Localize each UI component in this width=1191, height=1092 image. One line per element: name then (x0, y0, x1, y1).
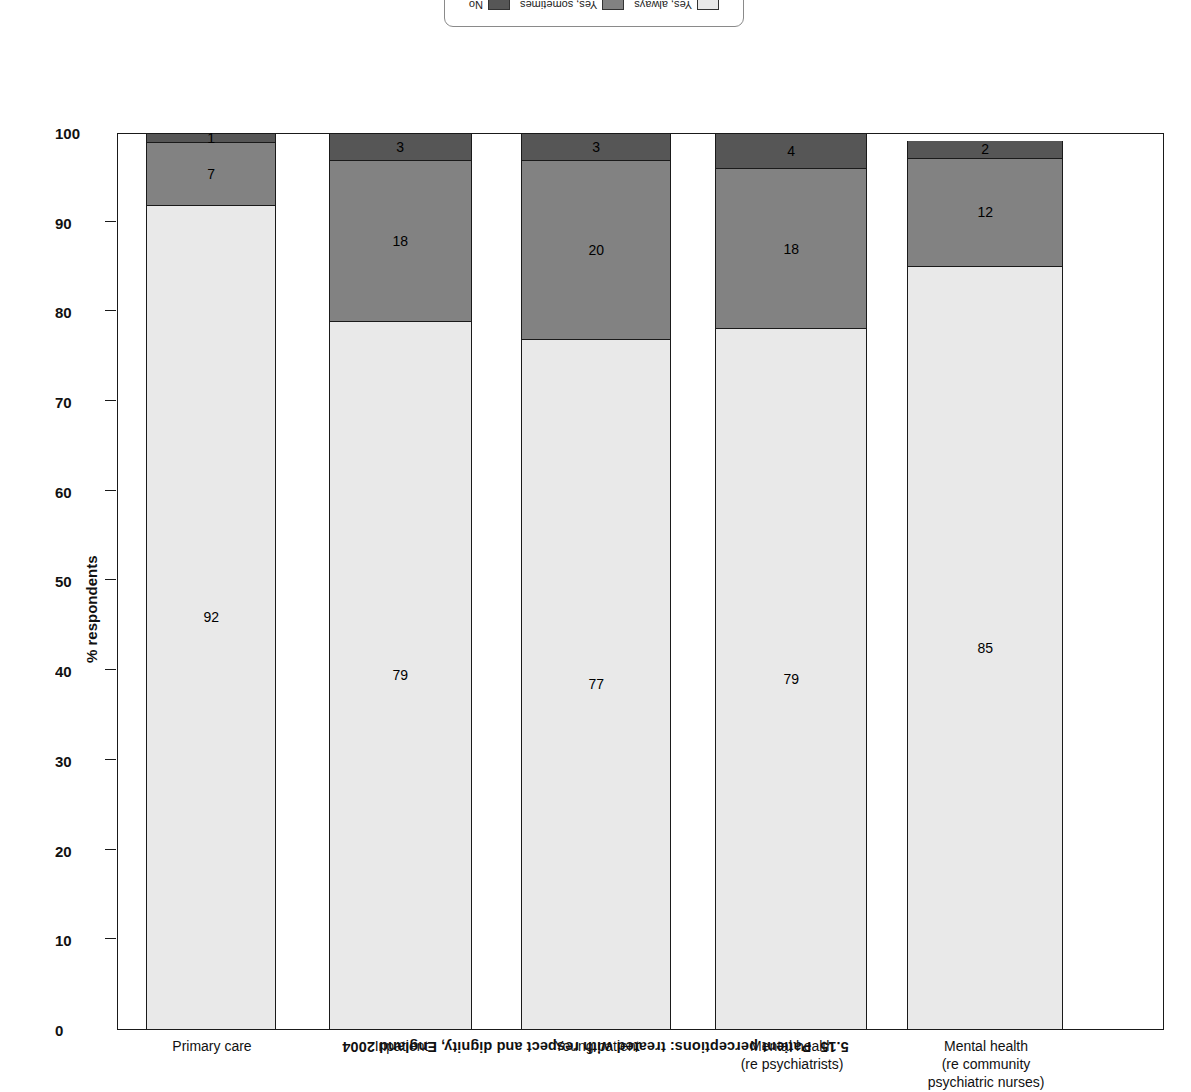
bar-segment: 2 (907, 141, 1063, 159)
bar-value-label: 20 (588, 243, 604, 257)
y-axis-tick (105, 310, 116, 311)
bar-segment: 79 (329, 322, 472, 1029)
bar-stack: 79183 (329, 134, 472, 1029)
legend-swatch (602, 0, 624, 11)
bars-layer: 927179183772037918485122 (118, 134, 1163, 1029)
bar-segment: 20 (521, 161, 671, 340)
bar-value-label: 1 (207, 131, 215, 145)
bar-stack: 77203 (521, 134, 671, 1029)
bar-column: 79183 (329, 134, 472, 1029)
bar-segment: 4 (715, 134, 867, 169)
category-label: Mental health(re psychiatrists) (681, 1038, 903, 1074)
y-axis-tick-label: 70 (55, 395, 101, 410)
y-axis-tick-label: 10 (55, 933, 101, 948)
y-axis-tick-label: 60 (55, 485, 101, 500)
bar-stack: 9271 (146, 134, 276, 1029)
bar-value-label: 92 (203, 610, 219, 624)
category-label-line: Young patient (487, 1038, 707, 1056)
y-axis-tick-label: 0 (55, 1023, 101, 1038)
legend-item: Yes, sometimes (520, 0, 624, 11)
y-axis-tick-label: 100 (55, 126, 101, 141)
legend-swatch (697, 0, 719, 11)
bar-value-label: 2 (981, 142, 989, 156)
y-axis-tick (105, 221, 116, 222)
legend-item: Yes, always (634, 0, 719, 11)
y-axis-tick-label: 90 (55, 216, 101, 231)
plot-area: 927179183772037918485122 010203040506070… (117, 133, 1164, 1030)
category-label-line: psychiatric nurses) (873, 1074, 1099, 1092)
y-axis-tick (105, 759, 116, 760)
category-label-line: (re psychiatrists) (681, 1056, 903, 1074)
bar-value-label: 12 (977, 205, 993, 219)
bar-value-label: 7 (207, 167, 215, 181)
y-axis-tick-label: 20 (55, 844, 101, 859)
bar-column: 85122 (907, 134, 1063, 1029)
bar-value-label: 77 (588, 677, 604, 691)
bar-value-label: 85 (977, 641, 993, 655)
y-axis-tick (105, 580, 116, 581)
bar-value-label: 18 (393, 234, 409, 248)
bar-column: 77203 (521, 134, 671, 1029)
y-axis-tick (105, 490, 116, 491)
bar-value-label: 79 (783, 672, 799, 686)
category-label-line: Primary care (112, 1038, 312, 1056)
bar-segment: 85 (907, 267, 1063, 1029)
y-axis-title: % respondents (83, 555, 100, 663)
bar-segment: 77 (521, 340, 671, 1029)
bar-stack: 85122 (907, 134, 1063, 1029)
legend-label: No (469, 0, 483, 11)
category-label-line: Mental health (681, 1038, 903, 1056)
y-axis-tick (105, 849, 116, 850)
y-axis-tick (105, 938, 116, 939)
legend-label: Yes, sometimes (520, 0, 597, 11)
legend-label: Yes, always (634, 0, 692, 11)
bar-segment: 18 (329, 161, 472, 322)
category-label: Primary care (112, 1038, 312, 1056)
category-label: Young patient (487, 1038, 707, 1056)
bar-segment: 92 (146, 206, 276, 1029)
bar-column: 9271 (146, 134, 276, 1029)
bar-value-label: 3 (592, 140, 600, 154)
y-axis-tick (105, 669, 116, 670)
bar-segment: 1 (146, 134, 276, 143)
y-axis-tick-label: 40 (55, 664, 101, 679)
y-axis-tick-label: 80 (55, 305, 101, 320)
bar-segment: 18 (715, 169, 867, 329)
category-label-line: (re community (873, 1056, 1099, 1074)
bar-segment: 3 (329, 134, 472, 161)
bar-segment: 79 (715, 329, 867, 1029)
bar-value-label: 79 (393, 668, 409, 682)
category-label: Mental health(re communitypsychiatric nu… (873, 1038, 1099, 1092)
bar-segment: 7 (146, 143, 276, 206)
legend-swatch (488, 0, 510, 11)
bar-column: 79184 (715, 134, 867, 1029)
bar-segment: 3 (521, 134, 671, 161)
bar-value-label: 3 (397, 140, 405, 154)
chart-legend: Yes, alwaysYes, sometimesNo (444, 0, 744, 27)
y-axis-tick (105, 400, 116, 401)
category-label-line: Mental health (873, 1038, 1099, 1056)
bar-segment: 12 (907, 159, 1063, 267)
bar-value-label: 4 (787, 144, 795, 158)
category-label-line: Inpatient (295, 1038, 508, 1056)
bar-value-label: 18 (783, 242, 799, 256)
legend-item: No (469, 0, 510, 11)
y-axis-tick-label: 30 (55, 754, 101, 769)
bar-stack: 79184 (715, 134, 867, 1029)
category-label: Inpatient (295, 1038, 508, 1056)
